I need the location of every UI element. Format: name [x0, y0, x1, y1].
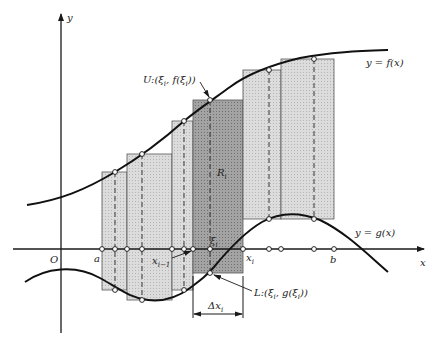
b-label: b: [330, 254, 336, 265]
upper-sample-point: [113, 170, 118, 175]
upper-point-label: U:(ξi, f(ξi)): [143, 74, 196, 88]
partition-point: [312, 247, 317, 252]
rectangle: [172, 121, 193, 290]
a-label: a: [94, 253, 100, 264]
upper-sample-point: [312, 57, 317, 62]
partition-point: [113, 247, 118, 252]
partition-point: [170, 247, 175, 252]
partition-point: [267, 247, 272, 252]
lower-sample-point: [182, 288, 187, 293]
partition-point: [100, 247, 105, 252]
upper-point-leader: [200, 82, 209, 97]
area-between-curves-diagram: y x O a b xi−1 xi ξi Ri Δxi U:(ξi, f(ξi)…: [0, 0, 439, 348]
rectangle: [243, 70, 281, 219]
partition-point: [208, 247, 213, 252]
x-axis-label: x: [420, 257, 426, 268]
lower-sample-point: [140, 298, 145, 303]
upper-sample-point: [182, 119, 187, 124]
lower-point-leader: [214, 275, 252, 291]
upper-sample-point: [208, 98, 213, 103]
partition-point: [125, 247, 130, 252]
partition-point: [332, 247, 337, 252]
upper-curve-label: y = f(x): [365, 57, 404, 68]
upper-sample-point: [140, 152, 145, 157]
lower-curve-label: y = g(x): [354, 227, 395, 238]
origin-label: O: [50, 254, 58, 265]
y-axis-label: y: [66, 12, 73, 23]
highlighted-rectangle-r-i: [193, 100, 243, 273]
lower-point-label: L:(ξi, g(ξi)): [253, 287, 308, 301]
delta-x-label: Δxi: [207, 300, 223, 314]
rectangle: [127, 154, 172, 300]
lower-sample-point: [208, 271, 213, 276]
rectangle: [102, 172, 127, 290]
upper-sample-point: [267, 68, 272, 73]
partition-point: [191, 247, 196, 252]
x-i-label: xi: [246, 252, 254, 266]
lower-sample-point: [312, 217, 317, 222]
rectangle: [281, 59, 334, 219]
partition-point: [279, 247, 284, 252]
lower-sample-point: [113, 288, 118, 293]
partition-point: [241, 247, 246, 252]
partition-point: [140, 247, 145, 252]
partition-point: [182, 247, 187, 252]
lower-sample-point: [267, 217, 272, 222]
